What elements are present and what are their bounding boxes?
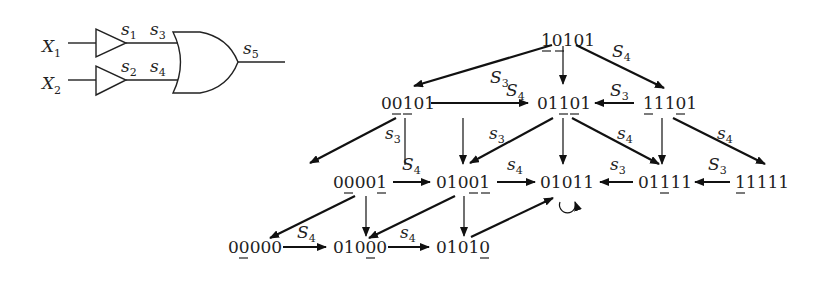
input-x2-label: X2 (40, 73, 61, 97)
node-00101: 00101 (381, 93, 435, 113)
state-transition-graph: 10101 00101 01101 11101 00001 01001 0101… (228, 30, 789, 258)
edge-01010-01011 (471, 198, 553, 237)
node-01000: 01000 (333, 237, 387, 257)
edge-label-e12: S3 (708, 154, 727, 177)
signal-s1-label: s1 (121, 19, 137, 42)
edge-label-e6: s3 (489, 123, 505, 146)
node-01111: 01111 (638, 172, 692, 192)
signal-s3-label: s3 (150, 19, 166, 42)
node-01010: 01010 (436, 237, 490, 257)
signal-s4-label: s4 (150, 56, 166, 79)
edge-00101-00001 (310, 118, 396, 163)
edge-label-e11: s3 (610, 154, 626, 177)
node-00001: 00001 (333, 172, 387, 192)
node-11111: 11111 (735, 172, 789, 192)
diagram-canvas: X1 X2 s1 s3 s2 s4 s5 10101 00101 01101 1… (0, 0, 833, 289)
edge-label-e14: s4 (400, 222, 416, 245)
node-11101: 11101 (643, 93, 697, 113)
signal-s2-label: s2 (121, 56, 137, 79)
node-01001: 01001 (436, 172, 490, 192)
edge-label-e13: S4 (297, 222, 316, 245)
edge-label-e2: S4 (612, 41, 631, 64)
edge-10101-00101 (414, 45, 552, 86)
edge-label-e5: s3 (385, 123, 401, 146)
edge-label-e8: s4 (717, 123, 733, 146)
node-00000: 00000 (228, 237, 282, 257)
node-01011: 01011 (540, 172, 594, 192)
or-gate-icon (173, 32, 238, 93)
input-x1-label: X1 (40, 36, 61, 60)
edge-label-e10: s4 (507, 154, 523, 177)
self-loop-01011-icon (560, 202, 576, 213)
logic-circuit: X1 X2 s1 s3 s2 s4 s5 (40, 19, 285, 97)
edge-label-e7: s4 (617, 123, 633, 146)
edge-label-e9: S4 (402, 154, 421, 177)
edge-label-e3: S4 (506, 80, 525, 103)
signal-s5-label: s5 (243, 38, 259, 61)
edge-label-e4: S3 (610, 80, 629, 103)
node-01101: 01101 (537, 93, 591, 113)
